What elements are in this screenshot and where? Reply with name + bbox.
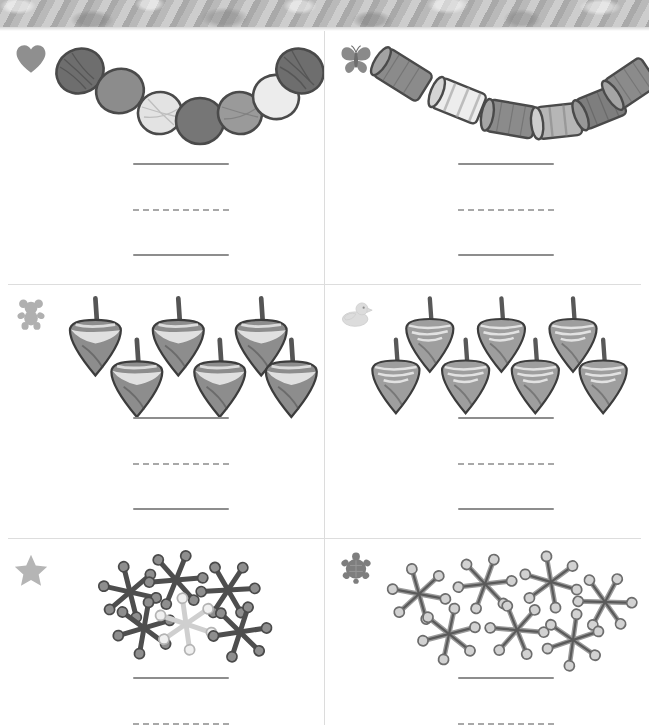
spinning-tops-artwork-6 (48, 287, 318, 417)
spinning-tops-artwork-7 (373, 287, 643, 417)
exercise-row-1 (0, 31, 649, 284)
star-icon (14, 553, 48, 587)
worksheet-page (0, 0, 649, 725)
exercise-cell-5[interactable] (0, 539, 324, 725)
decorative-banner (0, 0, 649, 27)
answer-lines-4[interactable] (458, 417, 554, 510)
exercise-cell-1[interactable] (0, 31, 324, 284)
answer-lines-2[interactable] (458, 163, 554, 256)
butterfly-icon (339, 43, 373, 77)
exercise-row-2 (0, 285, 649, 538)
heart-icon (14, 43, 48, 77)
jacks-artwork-6 (52, 547, 314, 677)
writing-line-bottom (133, 254, 229, 256)
answer-lines-5[interactable] (133, 677, 229, 725)
teddy-bear-icon (14, 297, 48, 331)
writing-line-bottom (458, 508, 554, 510)
exercise-cell-3[interactable] (0, 285, 324, 538)
answer-lines-6[interactable] (458, 677, 554, 725)
round-beads-artwork (48, 35, 318, 165)
exercise-cell-2[interactable] (324, 31, 648, 284)
exercise-cell-6[interactable] (324, 539, 648, 725)
writing-line-bottom (133, 508, 229, 510)
answer-lines-1[interactable] (133, 163, 229, 256)
writing-line-bottom (458, 254, 554, 256)
turtle-icon (339, 551, 373, 585)
duck-icon (339, 297, 373, 331)
jacks-artwork-7 (369, 547, 639, 677)
cylinder-beads-artwork (373, 35, 643, 165)
answer-lines-3[interactable] (133, 417, 229, 510)
exercise-cell-4[interactable] (324, 285, 648, 538)
exercise-row-3 (0, 539, 649, 725)
exercise-grid (0, 31, 649, 725)
